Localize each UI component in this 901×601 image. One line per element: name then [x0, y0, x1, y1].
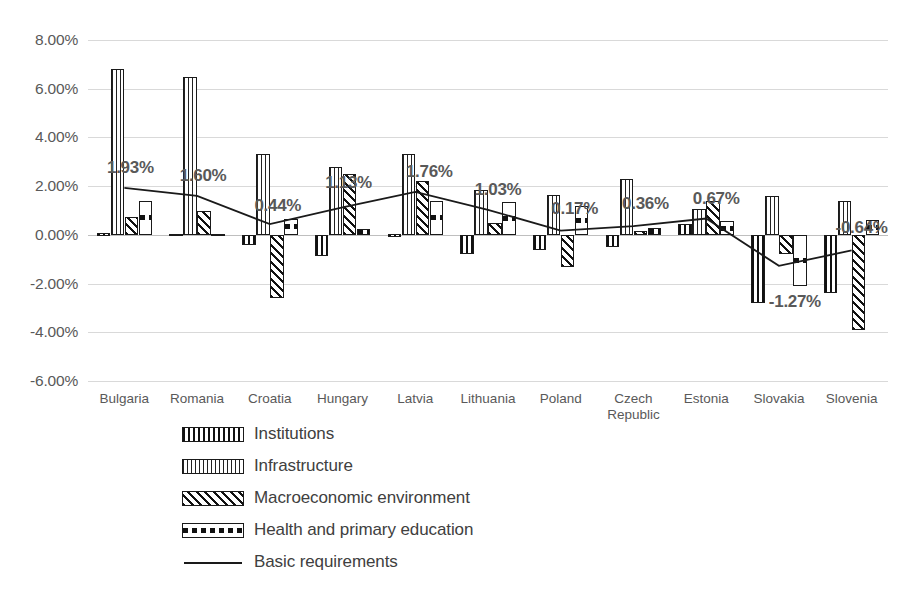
legend-swatch-icon	[182, 491, 244, 506]
y-axis-tick-label: 2.00%	[0, 178, 78, 194]
x-axis-tick-label: Lithuania	[452, 391, 525, 407]
y-axis-tick-label: 8.00%	[0, 32, 78, 48]
y-axis-tick-label: 4.00%	[0, 130, 78, 146]
y-axis-tick-label: -6.00%	[0, 373, 78, 389]
y-axis-tick-label: 6.00%	[0, 81, 78, 97]
y-axis-tick-label: -2.00%	[0, 276, 78, 292]
legend-item-health-and-primary-education[interactable]: Health and primary education	[182, 514, 742, 546]
legend-swatch-icon	[182, 523, 244, 538]
legend-label: Institutions	[254, 424, 334, 444]
x-axis-tick-label: Slovakia	[743, 391, 816, 407]
legend-item-macroeconomic-environment[interactable]: Macroeconomic environment	[182, 482, 742, 514]
x-axis-tick-label: Slovenia	[815, 391, 888, 407]
gridline	[88, 381, 888, 382]
x-axis-tick-label: Bulgaria	[88, 391, 161, 407]
legend-swatch-icon	[182, 555, 244, 570]
x-axis-tick-label: Croatia	[233, 391, 306, 407]
x-axis-tick-label: Latvia	[379, 391, 452, 407]
y-axis-tick-label: -4.00%	[0, 325, 78, 341]
legend-swatch-icon	[182, 427, 244, 442]
legend-item-basic-requirements[interactable]: Basic requirements	[182, 546, 742, 578]
legend-label: Basic requirements	[254, 552, 398, 572]
legend-item-institutions[interactable]: Institutions	[182, 418, 742, 450]
legend-item-infrastructure[interactable]: Infrastructure	[182, 450, 742, 482]
x-axis-tick-label: Poland	[524, 391, 597, 407]
legend-label: Health and primary education	[254, 520, 473, 540]
legend-label: Infrastructure	[254, 456, 353, 476]
y-axis-tick-label: 0.00%	[0, 227, 78, 243]
x-axis-tick-label: Estonia	[670, 391, 743, 407]
y-axis: 8.00%6.00%4.00%2.00%0.00%-2.00%-4.00%-6.…	[0, 40, 78, 381]
chart-legend: InstitutionsInfrastructureMacroeconomic …	[182, 418, 742, 578]
legend-swatch-icon	[182, 459, 244, 474]
x-axis-tick-label: Hungary	[306, 391, 379, 407]
x-axis-tick-label: Romania	[161, 391, 234, 407]
basic-requirements-line	[88, 40, 888, 381]
chart-container: 8.00%6.00%4.00%2.00%0.00%-2.00%-4.00%-6.…	[0, 0, 901, 601]
legend-label: Macroeconomic environment	[254, 488, 470, 508]
